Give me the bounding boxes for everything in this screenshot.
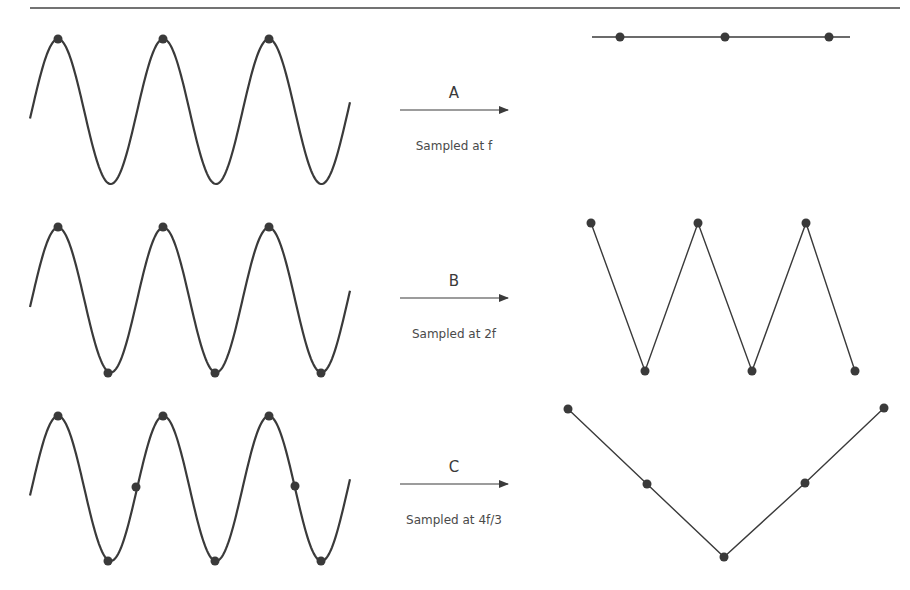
sample-dot — [801, 479, 810, 488]
sample-dot — [159, 412, 168, 421]
reconstructed-signal — [568, 408, 884, 557]
row-a-sampled-at-f: A Sampled at f — [30, 33, 850, 185]
sample-points — [54, 35, 274, 44]
sample-dot — [265, 35, 274, 44]
sampling-rate-caption: Sampled at 4f/3 — [406, 513, 502, 527]
sample-dot — [54, 35, 63, 44]
sample-dot — [291, 482, 300, 491]
sine-wave — [30, 39, 350, 184]
row-letter-label: B — [449, 272, 459, 290]
row-letter-label: C — [449, 458, 459, 476]
sample-dot — [211, 557, 220, 566]
sample-dot — [104, 557, 113, 566]
sampling-rate-caption: Sampled at 2f — [412, 327, 497, 341]
sample-dot — [265, 412, 274, 421]
sample-dot — [54, 223, 63, 232]
sample-dot — [694, 219, 703, 228]
reconstructed-sample-points — [587, 219, 860, 376]
sample-dot — [851, 367, 860, 376]
sample-dot — [721, 33, 730, 42]
sample-dot — [564, 405, 573, 414]
sample-dot — [643, 480, 652, 489]
sample-dot — [265, 223, 274, 232]
sample-dot — [616, 33, 625, 42]
sample-dot — [641, 367, 650, 376]
row-b-sampled-at-2f: B Sampled at 2f — [30, 219, 860, 378]
sine-wave — [30, 416, 350, 561]
sample-dot — [54, 412, 63, 421]
reconstructed-signal — [591, 223, 855, 371]
sample-dot — [159, 223, 168, 232]
sample-dot — [720, 553, 729, 562]
sample-dot — [317, 557, 326, 566]
sample-dot — [211, 369, 220, 378]
sample-dot — [587, 219, 596, 228]
sample-dot — [802, 219, 811, 228]
row-c-sampled-at-4f-3: C Sampled at 4f/3 — [30, 404, 889, 566]
sample-dot — [825, 33, 834, 42]
sample-dot — [748, 367, 757, 376]
sample-dot — [104, 369, 113, 378]
sample-dot — [132, 483, 141, 492]
sine-wave — [30, 228, 350, 373]
reconstructed-sample-points — [564, 404, 889, 562]
sample-dot — [880, 404, 889, 413]
sample-dot — [159, 35, 168, 44]
sample-dot — [317, 369, 326, 378]
aliasing-diagram: A Sampled at f B Sampled at 2f C Sampled… — [0, 0, 910, 590]
sampling-rate-caption: Sampled at f — [416, 139, 493, 153]
row-letter-label: A — [449, 84, 460, 102]
